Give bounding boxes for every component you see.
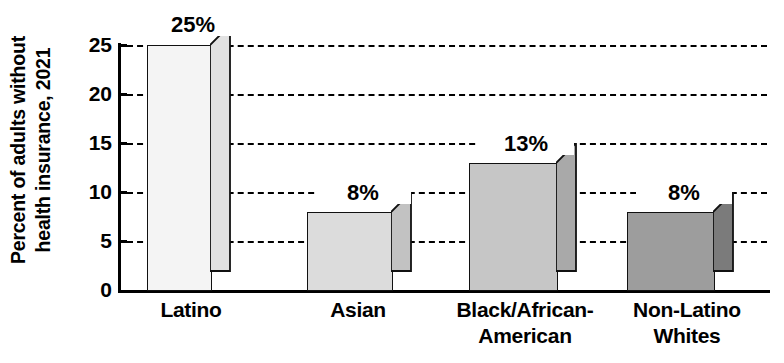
bar-latino-side-face <box>210 25 232 291</box>
bar-non-latino-whites-side-face <box>713 192 735 291</box>
bar-asian-side-face <box>391 192 413 291</box>
y-axis-line <box>118 43 121 293</box>
y-tick-mark-20 <box>118 93 127 96</box>
bar-black-african-american-side-face <box>556 143 578 291</box>
y-tick-mark-5 <box>118 240 127 243</box>
y-tick-label-10: 10 <box>66 181 112 202</box>
bar-non-latino-whites[interactable] <box>627 212 735 291</box>
bar-black-african-american[interactable] <box>469 163 578 291</box>
bar-chart: Percent of adults without health insuran… <box>0 0 784 363</box>
category-label-black-african-american-line-2: American <box>440 323 610 349</box>
y-tick-mark-10 <box>118 191 127 194</box>
y-axis-tick-labels: 25 20 15 10 5 0 <box>60 0 112 363</box>
category-label-latino-line-1: Latino <box>160 298 221 321</box>
bar-latino-front-face <box>147 45 212 291</box>
bar-asian-front-face <box>307 212 393 291</box>
value-label-latino: 25% <box>145 14 241 36</box>
y-tick-label-15: 15 <box>66 132 112 153</box>
y-tick-label-5: 5 <box>66 230 112 251</box>
category-label-non-latino-whites: Non-Latino Whites <box>612 297 762 349</box>
y-tick-label-0: 0 <box>66 279 112 300</box>
value-label-asian: 8% <box>315 182 411 204</box>
y-axis-title-line-2: health insurance, 2021 <box>31 36 56 264</box>
category-label-black-african-american: Black/African- American <box>440 297 610 349</box>
y-tick-mark-25 <box>118 44 127 47</box>
category-label-asian: Asian <box>300 297 416 323</box>
bar-non-latino-whites-front-face <box>627 212 715 291</box>
y-tick-mark-15 <box>118 142 127 145</box>
category-label-non-latino-whites-line-1: Non-Latino <box>633 298 741 321</box>
y-tick-label-20: 20 <box>66 83 112 104</box>
bar-latino[interactable] <box>147 45 232 291</box>
category-label-asian-line-1: Asian <box>330 298 386 321</box>
y-tick-label-25: 25 <box>66 34 112 55</box>
bar-asian[interactable] <box>307 212 413 291</box>
y-axis-title: Percent of adults without health insuran… <box>0 0 62 300</box>
category-label-latino: Latino <box>133 297 249 323</box>
bar-black-african-american-front-face <box>469 163 558 291</box>
value-label-non-latino-whites: 8% <box>636 182 732 204</box>
y-axis-title-line-1: Percent of adults without <box>6 36 31 264</box>
value-label-black-african-american: 13% <box>478 133 574 155</box>
category-label-black-african-american-line-1: Black/African- <box>456 298 593 321</box>
category-label-non-latino-whites-line-2: Whites <box>612 323 762 349</box>
